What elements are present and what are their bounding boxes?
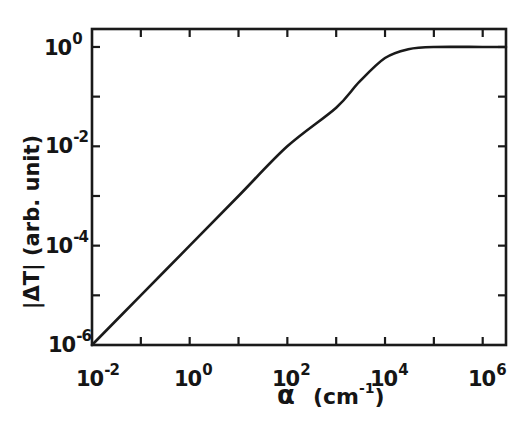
data-curve — [92, 47, 506, 345]
axis-ticks — [92, 29, 506, 345]
y-tick-label-10e0: 100 — [44, 33, 82, 60]
plot-frame — [92, 29, 506, 345]
y-tick-label-10e-6: 10-6 — [48, 330, 91, 357]
y-tick-label-10e-2: 10-2 — [45, 131, 88, 158]
y-tick-label-10e-4: 10-4 — [45, 231, 88, 258]
x-tick-label-10e0: 100 — [174, 364, 212, 391]
x-tick-label-10e-2: 10-2 — [76, 364, 119, 391]
y-axis-label: |ΔT| (arb. unit) — [20, 135, 44, 309]
x-axis-label: α(cm-1) — [277, 380, 385, 410]
x-tick-label-10e6: 106 — [468, 364, 506, 391]
